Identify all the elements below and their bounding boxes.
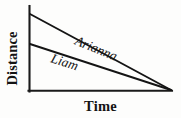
x-axis-label-container: Time — [29, 97, 172, 115]
x-axis-label: Time — [84, 98, 117, 114]
y-axis-label: Distance — [5, 31, 22, 85]
series-label-liam-group: Liam — [48, 50, 80, 73]
y-axis-label-container: Distance — [2, 18, 24, 98]
series-label-liam: Liam — [48, 50, 80, 73]
distance-time-graph-figure: Arianna Liam Distance Time — [0, 0, 181, 118]
